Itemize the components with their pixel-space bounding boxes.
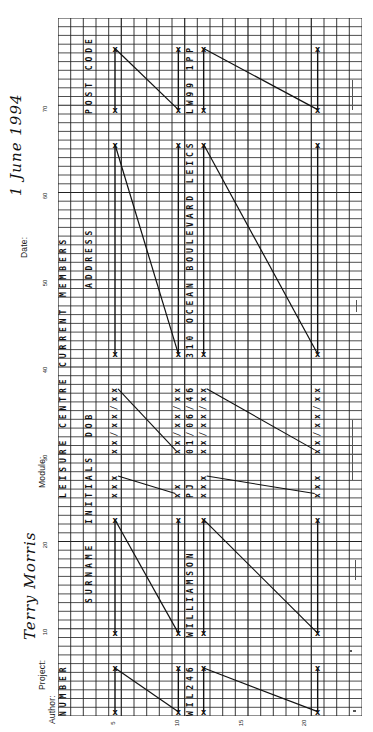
author-value: Terry Morris	[20, 531, 39, 640]
sample-number: WIL246	[186, 664, 195, 716]
svg-text:x: x	[112, 629, 118, 638]
dob-template-line10: xx/xx/xx	[173, 384, 182, 454]
initials-template-line10: xx	[173, 480, 182, 497]
initials-template-line21: xxx	[313, 472, 322, 498]
svg-text:x: x	[112, 664, 118, 673]
svg-text:x: x	[176, 45, 182, 54]
field-label-number: NUMBER	[59, 664, 68, 716]
svg-text:x: x	[112, 106, 118, 115]
project-field: Project:	[30, 660, 49, 690]
sample-postcode: LW99 1PP	[186, 44, 195, 114]
position-tick: 40	[42, 367, 48, 374]
svg-text:x: x	[201, 141, 207, 150]
svg-text:x: x	[315, 664, 321, 673]
svg-text:x: x	[201, 45, 207, 54]
dob-template-line5: xx/xx/xx	[110, 384, 119, 454]
initials-template-line12: xxx	[199, 472, 208, 498]
dob-template-line12: xx/xx/xx	[199, 384, 208, 454]
svg-text:x: x	[315, 106, 321, 115]
field-label-postcode: POST CODE	[85, 35, 94, 114]
sample-address: 310 OCEAN BOULEVARD LEICS	[186, 140, 195, 359]
svg-text:x: x	[201, 350, 207, 359]
svg-text:x: x	[112, 141, 118, 150]
sample-initials: PJ	[186, 480, 195, 497]
field-label-initials: INITIALS	[85, 454, 94, 524]
svg-text:x: x	[112, 516, 118, 525]
svg-text:x: x	[112, 350, 118, 359]
svg-text:x: x	[176, 629, 182, 638]
svg-text:x: x	[315, 45, 321, 54]
field-label-surname: SURNAME	[85, 541, 94, 602]
field-label-address: ADDRESS	[85, 227, 94, 288]
svg-text:x: x	[176, 141, 182, 150]
record-layout-grid: xxxxxxxxxxxxxxxxxxxxxxxxxxxxxxxx	[58, 18, 362, 716]
svg-text:x: x	[176, 350, 182, 359]
line-tick: 10	[175, 720, 181, 727]
dob-template-line21: xx/xx/xx	[313, 384, 322, 454]
svg-text:x: x	[176, 708, 182, 716]
svg-text:x: x	[112, 708, 118, 716]
line-tick: 20	[301, 720, 307, 727]
position-tick: 10	[42, 629, 48, 636]
initials-template-line5: xxx	[110, 472, 119, 498]
date-label: Date:	[12, 237, 31, 258]
position-tick: 30	[42, 454, 48, 461]
svg-text:x: x	[201, 664, 207, 673]
position-tick: 20	[42, 542, 48, 549]
position-tick: 50	[42, 280, 48, 287]
position-tick: 70	[42, 105, 48, 112]
line-tick: 15	[238, 720, 244, 727]
svg-text:x: x	[315, 350, 321, 359]
sample-surname: WILLIAMSON	[186, 550, 195, 637]
field-label-dob: DOB	[85, 411, 94, 437]
svg-text:x: x	[201, 106, 207, 115]
svg-text:x: x	[201, 708, 207, 716]
svg-text:x: x	[315, 708, 321, 716]
svg-text:x: x	[201, 629, 207, 638]
line-tick: 5	[110, 721, 116, 724]
grid-lines: xxxxxxxxxxxxxxxxxxxxxxxxxxxxxxxx	[58, 18, 362, 716]
sample-dob: 01/06/46	[186, 384, 195, 454]
svg-text:x: x	[112, 45, 118, 54]
svg-text:x: x	[201, 516, 207, 525]
date-value: 1 June 1994	[6, 94, 25, 196]
layout-title: LEISURE CENTRE CURRENT MEMBERS	[59, 236, 68, 498]
svg-text:x: x	[176, 516, 182, 525]
author-label: Author:	[40, 695, 59, 724]
svg-text:x: x	[315, 516, 321, 525]
svg-text:x: x	[315, 141, 321, 150]
position-tick: 60	[42, 193, 48, 200]
svg-text:x: x	[176, 664, 182, 673]
svg-text:x: x	[315, 629, 321, 638]
svg-text:x: x	[176, 106, 182, 115]
